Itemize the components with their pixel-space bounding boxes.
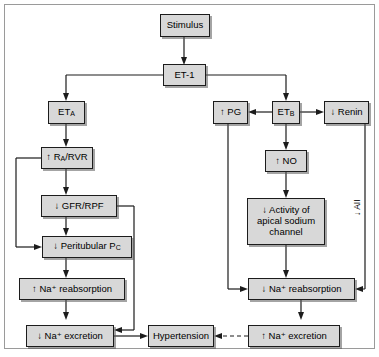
node-et-a: ETA (48, 101, 85, 124)
node-ra-rvr: ↑ RA/RVR (41, 147, 93, 169)
node-gfr-rpf: ↓ GFR/RPF (41, 195, 117, 217)
node-pg-label: ↑ PG (220, 107, 241, 118)
node-peritubular-pc-label: ↓ Peritubular PC (53, 241, 120, 252)
node-stimulus: Stimulus (160, 14, 210, 37)
node-na-reabsorption-right-label: ↓ Na⁺ reabsorption (262, 284, 342, 295)
node-renin-label: ↓ Renin (330, 107, 362, 118)
node-gfr-rpf-label: ↓ GFR/RPF (54, 201, 103, 212)
node-et-b: ETB (272, 101, 300, 124)
node-et-a-subscript: A (70, 110, 75, 117)
node-et-a-label: ETA (58, 107, 75, 118)
node-et-b-subscript: B (290, 110, 295, 117)
node-stimulus-label: Stimulus (167, 20, 203, 31)
node-no-label: ↑ NO (275, 156, 297, 167)
node-renin: ↓ Renin (324, 101, 369, 124)
node-apical-sodium-channel: ↓ Activity of apical sodium channel (247, 198, 325, 245)
node-apical-sodium-channel-label: ↓ Activity of apical sodium channel (250, 205, 322, 238)
flowchart-figure: Stimulus ET-1 ETA ↑ RA/RVR ↓ GFR/RPF ↓ P… (0, 0, 379, 357)
node-na-excretion-right: ↑ Na⁺ excretion (248, 325, 340, 347)
node-na-excretion-left: ↓ Na⁺ excretion (26, 325, 114, 347)
node-hypertension: Hypertension (148, 325, 214, 347)
node-peritubular-pc: ↓ Peritubular PC (42, 236, 132, 258)
node-et1: ET-1 (163, 64, 206, 86)
node-na-reabsorption-left-label: ↑ Na⁺ reabsorption (32, 284, 112, 295)
node-pg: ↑ PG (213, 101, 248, 124)
edge-label-aii-text: ↓ AII (352, 199, 362, 216)
node-na-reabsorption-left: ↑ Na⁺ reabsorption (19, 278, 125, 300)
node-na-excretion-right-label: ↑ Na⁺ excretion (261, 331, 327, 342)
node-hypertension-label: Hypertension (153, 331, 209, 342)
node-peritubular-subscript: C (116, 244, 121, 251)
connector-layer (0, 0, 379, 357)
node-na-excretion-left-label: ↓ Na⁺ excretion (37, 331, 103, 342)
node-ra-rvr-label: ↑ RA/RVR (46, 152, 87, 163)
edge-label-aii: ↓ AII (352, 199, 362, 216)
node-et-b-label: ETB (278, 107, 295, 118)
node-na-reabsorption-right: ↓ Na⁺ reabsorption (248, 278, 355, 300)
node-et1-label: ET-1 (174, 70, 194, 81)
node-no: ↑ NO (265, 150, 307, 172)
